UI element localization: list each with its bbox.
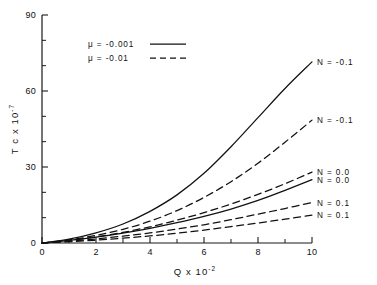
chart-axes (42, 15, 312, 243)
x-tick-label: 0 (39, 247, 44, 257)
legend-label: μ = -0.01 (88, 54, 129, 63)
x-tick-label: 2 (93, 247, 98, 257)
series-end-label: N = -0.1 (317, 58, 354, 67)
y-tick-label: 0 (31, 238, 36, 248)
y-axis-title: T c x 10-7 (8, 104, 20, 154)
line-chart: 03060900246810 N = -0.1N = -0.1N = 0.0N … (0, 0, 377, 285)
chart-figure: 03060900246810 N = -0.1N = -0.1N = 0.0N … (0, 0, 377, 285)
chart-series-lines (42, 62, 312, 243)
series-line (42, 172, 312, 243)
x-axis-title: Q x 10-2 (174, 265, 216, 277)
y-tick-label: 90 (26, 10, 36, 20)
x-tick-label: 10 (307, 247, 317, 257)
y-tick-label: 60 (26, 86, 36, 96)
legend-label: μ = -0.001 (88, 40, 134, 49)
x-tick-label: 4 (147, 247, 152, 257)
series-end-label: N = 0.0 (317, 176, 350, 185)
chart-series-labels: N = -0.1N = -0.1N = 0.0N = 0.0N = 0.1N =… (317, 58, 354, 220)
chart-tick-labels: 03060900246810 (26, 10, 318, 257)
chart-legend: μ = -0.001μ = -0.01 (88, 40, 186, 63)
y-tick-label: 30 (26, 162, 36, 172)
series-end-label: N = 0.1 (317, 199, 350, 208)
series-line (42, 62, 312, 243)
x-tick-label: 8 (255, 247, 260, 257)
series-end-label: N = 0.1 (317, 211, 350, 220)
chart-ticks (42, 15, 312, 243)
series-end-label: N = -0.1 (317, 116, 354, 125)
axis-lines (42, 15, 312, 243)
x-tick-label: 6 (201, 247, 206, 257)
series-line (42, 120, 312, 243)
